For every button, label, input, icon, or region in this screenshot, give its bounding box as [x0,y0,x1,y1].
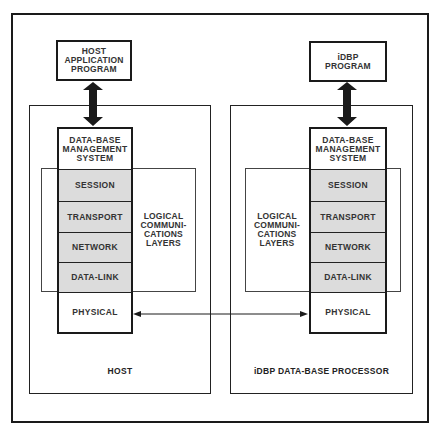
host-program-dbms-arrow-icon [83,82,103,126]
idbp-program-dbms-arrow-icon [337,82,357,126]
physical-link-arrow-icon [133,311,308,317]
connection-arrows [0,0,439,436]
